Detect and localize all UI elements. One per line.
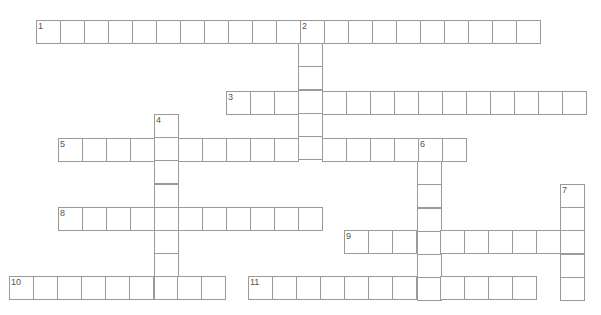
crossword-cell[interactable] [81,276,106,300]
crossword-cell[interactable] [560,207,585,231]
crossword-cell[interactable] [154,137,179,161]
crossword-cell[interactable]: 6 [418,138,443,162]
crossword-cell[interactable]: 2 [300,20,325,44]
crossword-cell[interactable] [202,207,227,231]
crossword-cell[interactable] [298,113,323,137]
crossword-cell[interactable] [562,91,587,115]
crossword-cell[interactable] [33,276,58,300]
crossword-cell[interactable] [298,90,323,114]
crossword-cell[interactable] [417,231,442,255]
crossword-cell[interactable] [396,20,421,44]
crossword-cell[interactable] [370,91,395,115]
crossword-cell[interactable] [105,276,130,300]
crossword-cell[interactable] [560,277,585,301]
crossword-cell[interactable] [394,138,419,162]
crossword-cell[interactable] [392,230,417,254]
crossword-cell[interactable]: 10 [9,276,34,300]
crossword-cell[interactable] [154,276,179,300]
crossword-cell[interactable] [370,138,395,162]
crossword-cell[interactable] [250,138,275,162]
crossword-cell[interactable] [417,277,442,301]
crossword-cell[interactable] [276,20,301,44]
crossword-cell[interactable] [417,184,442,208]
crossword-cell[interactable] [106,207,131,231]
crossword-cell[interactable] [516,20,541,44]
crossword-cell[interactable] [320,276,345,300]
crossword-cell[interactable] [202,138,227,162]
crossword-cell[interactable] [444,20,469,44]
crossword-cell[interactable] [130,207,155,231]
crossword-cell[interactable] [226,207,251,231]
crossword-cell[interactable] [468,20,493,44]
crossword-cell[interactable] [442,138,467,162]
crossword-cell[interactable] [536,230,561,254]
crossword-cell[interactable] [82,207,107,231]
crossword-cell[interactable] [372,20,397,44]
crossword-cell[interactable] [204,20,229,44]
crossword-cell[interactable] [488,276,513,300]
crossword-cell[interactable] [274,91,299,115]
crossword-cell[interactable] [250,91,275,115]
crossword-cell[interactable] [514,91,539,115]
crossword-cell[interactable] [180,20,205,44]
crossword-cell[interactable] [130,138,155,162]
crossword-cell[interactable] [106,138,131,162]
crossword-cell[interactable] [368,230,393,254]
crossword-cell[interactable] [252,20,277,44]
crossword-cell[interactable] [274,138,299,162]
crossword-cell[interactable] [466,91,491,115]
crossword-cell[interactable] [417,208,442,232]
crossword-cell[interactable] [394,91,419,115]
crossword-cell[interactable]: 11 [248,276,273,300]
crossword-cell[interactable] [226,138,251,162]
crossword-cell[interactable] [490,91,515,115]
crossword-cell[interactable] [82,138,107,162]
crossword-cell[interactable] [322,138,347,162]
crossword-cell[interactable] [464,276,489,300]
crossword-cell[interactable] [57,276,82,300]
crossword-cell[interactable] [440,276,465,300]
crossword-cell[interactable] [442,91,467,115]
crossword-cell[interactable] [201,276,226,300]
crossword-cell[interactable]: 5 [58,138,83,162]
crossword-cell[interactable] [344,276,369,300]
crossword-cell[interactable] [298,207,323,231]
crossword-cell[interactable] [178,138,203,162]
crossword-cell[interactable] [512,230,537,254]
crossword-cell[interactable] [129,276,154,300]
crossword-cell[interactable] [228,20,253,44]
crossword-cell[interactable] [154,184,179,208]
crossword-cell[interactable] [250,207,275,231]
crossword-cell[interactable] [538,91,563,115]
crossword-cell[interactable] [298,66,323,90]
crossword-cell[interactable] [346,91,371,115]
crossword-cell[interactable] [560,254,585,278]
crossword-cell[interactable] [108,20,133,44]
crossword-cell[interactable]: 4 [154,114,179,138]
crossword-cell[interactable] [298,136,323,160]
crossword-cell[interactable] [154,253,179,277]
crossword-cell[interactable] [440,230,465,254]
crossword-cell[interactable] [154,230,179,254]
crossword-cell[interactable] [368,276,393,300]
crossword-cell[interactable] [156,20,181,44]
crossword-cell[interactable] [296,276,321,300]
crossword-cell[interactable]: 3 [226,91,251,115]
crossword-cell[interactable] [178,207,203,231]
crossword-cell[interactable] [60,20,85,44]
crossword-cell[interactable] [298,43,323,67]
crossword-cell[interactable] [324,20,349,44]
crossword-cell[interactable] [560,230,585,254]
crossword-cell[interactable] [417,254,442,278]
crossword-cell[interactable]: 8 [58,207,83,231]
crossword-cell[interactable] [488,230,513,254]
crossword-cell[interactable] [132,20,157,44]
crossword-cell[interactable] [154,160,179,184]
crossword-cell[interactable] [348,20,373,44]
crossword-cell[interactable] [274,207,299,231]
crossword-cell[interactable] [512,276,537,300]
crossword-cell[interactable] [392,276,417,300]
crossword-cell[interactable] [84,20,109,44]
crossword-cell[interactable] [272,276,297,300]
crossword-cell[interactable]: 9 [344,230,369,254]
